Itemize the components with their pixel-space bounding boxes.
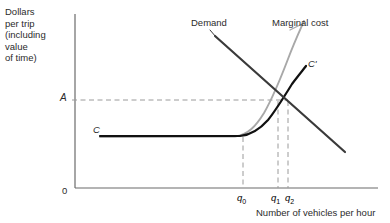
x-axis-tick-q1: q1 <box>271 192 280 205</box>
x-axis-tick-q1-sub: 1 <box>276 198 280 205</box>
x-axis-tick-q0-sub: 0 <box>242 198 246 205</box>
x-axis-tick-q2: q2 <box>285 192 294 205</box>
x-axis-title: Number of vehicles per hour <box>256 207 375 219</box>
x-axis-tick-q2-sub: 2 <box>290 198 294 205</box>
marginal-cost-curve <box>100 21 304 137</box>
demand-curve <box>215 36 345 152</box>
c-curve-label: C <box>93 124 100 136</box>
y-axis-title: Dollars per trip (including value of tim… <box>5 6 46 64</box>
demand-curve-label: Demand <box>191 17 227 29</box>
average-cost-curve <box>100 66 306 136</box>
x-axis-tick-q0: q0 <box>237 192 246 205</box>
congestion-pricing-figure: Dollars per trip (including value of tim… <box>0 0 390 223</box>
demand-leader-line <box>210 30 216 37</box>
y-axis-tick-a: A <box>60 92 67 104</box>
marginal-cost-curve-label: Marginal cost <box>272 17 329 29</box>
c-prime-curve-label: C' <box>308 58 317 70</box>
axis-origin-label: 0 <box>62 185 67 197</box>
chart-canvas <box>0 0 390 223</box>
